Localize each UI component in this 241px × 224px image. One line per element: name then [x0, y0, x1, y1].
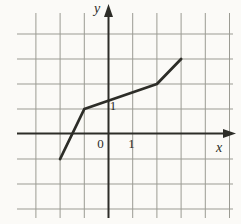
- x-axis-label: x: [215, 140, 223, 155]
- x-tick-label-1: 1: [128, 136, 135, 151]
- function-graph-figure: y x 0 1 1: [0, 0, 241, 224]
- axes: [17, 4, 236, 218]
- graph-svg: y x 0 1 1: [0, 0, 241, 224]
- origin-label: 0: [97, 136, 104, 151]
- y-axis-label: y: [92, 1, 101, 16]
- y-tick-label-1: 1: [110, 98, 117, 113]
- y-axis-arrow-icon: [104, 4, 113, 17]
- grid-lines: [17, 13, 233, 218]
